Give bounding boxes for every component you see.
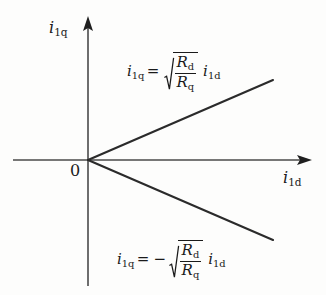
- lower-eq-num-subscript: d: [193, 249, 199, 260]
- upper-eq-numerator: Rd: [175, 55, 196, 73]
- lower-eq-radicand: RdRq: [178, 240, 203, 280]
- lower-eq-factor: i1d: [205, 252, 226, 269]
- lower-eq-denominator: Rq: [180, 261, 201, 280]
- lower-ray-line: [88, 160, 273, 240]
- upper-eq-factor: i1d: [200, 64, 221, 81]
- x-axis-label-subscript: 1d: [288, 176, 301, 188]
- lower-equation-annotation: i1q=−RdRqi1d: [117, 240, 226, 280]
- y-axis-label-subscript: 1q: [54, 26, 67, 38]
- upper-ray-line: [88, 80, 273, 160]
- radical-sign-icon: [169, 245, 178, 276]
- radical-sign-icon: [164, 57, 173, 88]
- upper-eq-num-subscript: d: [188, 61, 194, 72]
- upper-eq-fraction: RdRq: [175, 55, 196, 92]
- lower-eq-numerator: Rd: [180, 243, 201, 261]
- lower-eq-factor-subscript: 1d: [213, 257, 226, 268]
- lower-eq-den-subscript: q: [193, 268, 199, 279]
- upper-eq-den-base: R: [176, 73, 187, 91]
- origin-label: 0: [70, 163, 80, 179]
- upper-eq-radicand: RdRq: [173, 52, 198, 92]
- upper-eq-factor-subscript: 1d: [208, 69, 221, 80]
- upper-eq-lhs-subscript: 1q: [132, 70, 145, 81]
- lower-eq-radical: RdRq: [169, 240, 204, 280]
- upper-eq-radical: RdRq: [164, 52, 199, 92]
- upper-eq-denominator: Rq: [175, 73, 196, 92]
- lower-eq-fraction: RdRq: [180, 243, 201, 280]
- lower-eq-num-base: R: [182, 241, 193, 259]
- y-axis-label: i1q: [49, 20, 68, 38]
- lower-eq-den-base: R: [182, 261, 193, 279]
- lower-eq-minus-sign: −: [152, 250, 167, 268]
- lower-eq-lhs-subscript: 1q: [122, 258, 135, 269]
- lower-eq-relation: =: [134, 250, 151, 268]
- upper-eq-num-base: R: [176, 53, 187, 71]
- figure-canvas: i1q i1d 0 i1q=RdRqi1d i1q=−RdRqi1d: [0, 0, 326, 295]
- upper-eq-den-subscript: q: [188, 80, 194, 91]
- upper-equation-annotation: i1q=RdRqi1d: [127, 52, 221, 92]
- x-axis-label: i1d: [283, 170, 302, 188]
- upper-eq-relation: =: [144, 62, 161, 80]
